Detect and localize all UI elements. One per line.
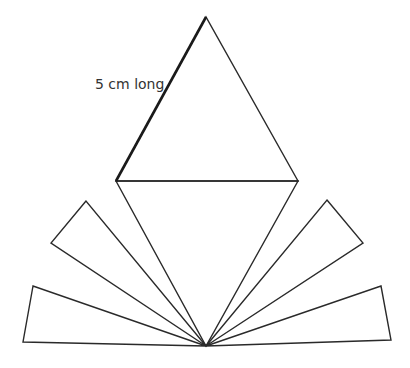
net-diagram: 5 cm long [0, 0, 410, 368]
right-upper-triangle [206, 200, 363, 346]
left-upper-triangle [51, 201, 206, 346]
highlighted-edge-5cm [116, 17, 206, 181]
middle-triangle [116, 181, 298, 346]
edge-length-label: 5 cm long [95, 76, 164, 92]
top-triangle [116, 17, 298, 181]
